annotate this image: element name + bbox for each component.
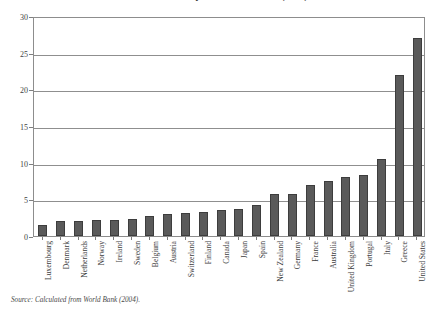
x-tick-label-canada: Canada	[223, 241, 231, 264]
bar-finland	[199, 212, 208, 236]
bar-greece	[395, 75, 404, 236]
x-tick-label-germany: Germany	[294, 241, 302, 269]
bar-canada	[217, 210, 226, 236]
bar-portugal	[359, 175, 368, 236]
x-tick-mark	[238, 237, 239, 240]
gridline	[34, 55, 424, 56]
source-note: Source: Calculated from World Bank (2004…	[11, 296, 140, 304]
x-tick-mark	[60, 237, 61, 240]
chart-figure: Government Expenditure on Health (2001) …	[0, 0, 437, 318]
bar-japan	[234, 209, 243, 236]
x-tick-label-denmark: Denmark	[63, 241, 71, 269]
bar-new-zealand	[270, 194, 279, 237]
bar-united-states	[413, 38, 422, 236]
bar-italy	[377, 159, 386, 236]
x-tick-mark	[327, 237, 328, 240]
bar-austria	[163, 214, 172, 236]
gridline	[34, 128, 424, 129]
x-tick-mark	[78, 237, 79, 240]
gridline	[34, 91, 424, 92]
x-tick-label-sweden: Sweden	[134, 241, 142, 265]
x-tick-mark	[291, 237, 292, 240]
x-tick-label-spain: Spain	[259, 241, 267, 258]
y-tick-label-15: 15	[0, 123, 28, 132]
bar-belgium	[145, 216, 154, 236]
x-tick-mark	[42, 237, 43, 240]
y-tick-label-5: 5	[0, 196, 28, 205]
y-tick-label-30: 30	[0, 13, 28, 22]
y-tick-label-0: 0	[0, 233, 28, 242]
bar-switzerland	[181, 213, 190, 236]
bar-norway	[92, 220, 101, 236]
plot-area	[33, 17, 425, 237]
x-tick-mark	[220, 237, 221, 240]
x-tick-label-norway: Norway	[98, 241, 106, 265]
x-tick-mark	[345, 237, 346, 240]
bar-netherlands	[74, 221, 83, 236]
x-tick-mark	[149, 237, 150, 240]
x-tick-label-netherlands: Netherlands	[81, 241, 89, 278]
bar-france	[306, 185, 315, 236]
x-tick-label-ireland: Ireland	[116, 241, 124, 263]
plot-inner	[34, 18, 424, 236]
x-tick-label-united-kingdom: United Kingdom	[348, 241, 356, 292]
bar-germany	[288, 194, 297, 237]
x-tick-mark	[274, 237, 275, 240]
x-tick-label-finland: Finland	[205, 241, 213, 264]
x-tick-mark	[185, 237, 186, 240]
x-tick-mark	[309, 237, 310, 240]
x-tick-mark	[131, 237, 132, 240]
y-tick-label-10: 10	[0, 159, 28, 168]
x-tick-label-japan: Japan	[241, 241, 249, 258]
x-tick-mark	[256, 237, 257, 240]
x-tick-label-luxembourg: Luxembourg	[45, 241, 53, 280]
x-tick-mark	[416, 237, 417, 240]
bar-denmark	[56, 221, 65, 236]
x-tick-label-portugal: Portugal	[366, 241, 374, 267]
bar-luxembourg	[38, 225, 47, 236]
y-tick-label-20: 20	[0, 86, 28, 95]
x-tick-label-france: France	[312, 241, 320, 262]
x-tick-label-austria: Austria	[170, 241, 178, 263]
x-tick-label-italy: Italy	[384, 241, 392, 255]
x-tick-mark	[363, 237, 364, 240]
gridline	[34, 165, 424, 166]
x-tick-label-switzerland: Switzerland	[188, 241, 196, 277]
bar-spain	[252, 205, 261, 237]
x-tick-label-new-zealand: New Zealand	[277, 241, 285, 282]
bar-ireland	[110, 220, 119, 236]
bar-sweden	[128, 219, 137, 236]
x-tick-label-belgium: Belgium	[152, 241, 160, 267]
bar-australia	[324, 181, 333, 236]
x-tick-label-united-states: United States	[419, 241, 427, 282]
x-tick-mark	[202, 237, 203, 240]
y-tick-mark	[29, 237, 33, 238]
x-tick-label-greece: Greece	[401, 241, 409, 263]
x-tick-mark	[381, 237, 382, 240]
x-tick-mark	[95, 237, 96, 240]
y-tick-label-25: 25	[0, 49, 28, 58]
x-tick-mark	[167, 237, 168, 240]
bar-united-kingdom	[341, 177, 350, 236]
x-tick-label-australia: Australia	[330, 241, 338, 269]
